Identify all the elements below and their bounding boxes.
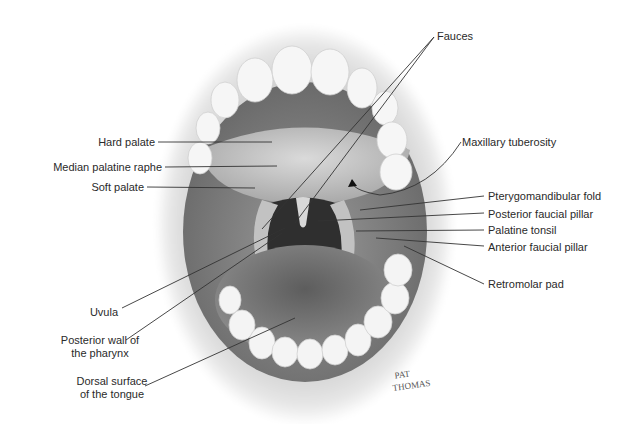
anatomy-figure: PAT THOMAS Hard palate Median palatine r… xyxy=(0,0,621,424)
label-hard-palate: Hard palate xyxy=(40,136,155,149)
label-soft-palate: Soft palate xyxy=(30,181,144,194)
label-maxillary-tuberosity: Maxillary tuberosity xyxy=(462,136,556,149)
label-pterygomandibular-fold: Pterygomandibular fold xyxy=(488,190,601,203)
label-retromolar-pad: Retromolar pad xyxy=(488,278,564,291)
label-posterior-wall-pharynx: Posterior wall of the pharynx xyxy=(40,334,160,360)
label-uvula: Uvula xyxy=(60,306,118,319)
label-anterior-faucial-pillar: Anterior faucial pillar xyxy=(488,241,588,254)
artist-signature: PAT xyxy=(394,369,411,381)
label-dorsal-surface-tongue: Dorsal surface of the tongue xyxy=(62,375,162,401)
label-fauces: Fauces xyxy=(437,30,473,43)
label-posterior-faucial-pillar: Posterior faucial pillar xyxy=(488,208,593,221)
label-palatine-tonsil: Palatine tonsil xyxy=(488,224,557,237)
label-median-palatine-raphe: Median palatine raphe xyxy=(10,161,162,174)
